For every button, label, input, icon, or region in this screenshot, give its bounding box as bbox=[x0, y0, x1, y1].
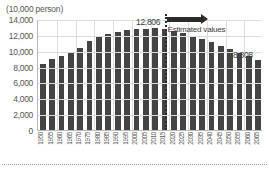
x-axis-tick-label: 2010 bbox=[151, 132, 157, 145]
x-axis-tick-label: 2005 bbox=[142, 132, 148, 145]
bar bbox=[255, 60, 261, 130]
x-gridline bbox=[57, 20, 58, 130]
x-axis-tick-label: 2030 bbox=[188, 132, 194, 145]
x-axis-tick-label: 2050 bbox=[226, 132, 232, 145]
x-axis-tick-label: 1950 bbox=[38, 132, 44, 145]
x-axis-tick-label: 2040 bbox=[207, 132, 213, 145]
x-axis-tick-label: 1995 bbox=[123, 132, 129, 145]
y-axis-tick-label: 14,000 bbox=[0, 15, 33, 25]
plot-area bbox=[37, 20, 262, 131]
x-axis-tick-label: 2025 bbox=[179, 132, 185, 145]
final-value-label: 8,808 bbox=[233, 50, 253, 60]
bar bbox=[77, 48, 83, 130]
x-gridline bbox=[76, 20, 77, 130]
x-gridline bbox=[151, 20, 152, 130]
x-gridline bbox=[132, 20, 133, 130]
x-gridline bbox=[169, 20, 170, 130]
bar bbox=[218, 46, 224, 130]
y-axis-tick-label: 12,000 bbox=[0, 31, 33, 41]
bar bbox=[237, 53, 243, 130]
y-axis-tick-label: 10,000 bbox=[0, 47, 33, 57]
bar bbox=[227, 49, 233, 130]
bottom-dotted-rule bbox=[2, 164, 267, 165]
x-axis-tick-label: 2060 bbox=[245, 132, 251, 145]
x-gridline bbox=[113, 20, 114, 130]
x-gridline bbox=[94, 20, 95, 130]
x-axis-tick-label: 2035 bbox=[198, 132, 204, 145]
estimated-values-label: Estimated values bbox=[168, 25, 226, 34]
bar bbox=[209, 42, 215, 130]
y-axis-tick-label: 0 bbox=[0, 126, 33, 136]
y-axis-tick-label: 4,000 bbox=[0, 94, 33, 104]
x-axis-tick-label: 1965 bbox=[67, 132, 73, 145]
bar bbox=[68, 52, 74, 130]
peak-value-label: 12,806 bbox=[136, 17, 160, 27]
y-axis-unit-label: (10,000 person) bbox=[6, 4, 63, 14]
x-axis-tick-label: 2020 bbox=[170, 132, 176, 145]
x-axis-tick-label: 2065 bbox=[254, 132, 260, 145]
x-axis-tick-label: 2055 bbox=[235, 132, 241, 145]
x-gridline bbox=[188, 20, 189, 130]
bar bbox=[49, 59, 55, 130]
x-axis-tick-label: 1975 bbox=[85, 132, 91, 145]
x-axis-tick-label: 1955 bbox=[48, 132, 54, 145]
x-axis-tick-label: 2045 bbox=[217, 132, 223, 145]
x-axis-tick-label: 1960 bbox=[57, 132, 63, 145]
x-axis-tick-label: 2000 bbox=[132, 132, 138, 145]
x-gridline bbox=[244, 20, 245, 130]
y-axis-tick-label: 2,000 bbox=[0, 110, 33, 120]
bar bbox=[40, 64, 46, 130]
estimate-divider-line bbox=[165, 14, 167, 130]
x-axis-tick-label: 1985 bbox=[104, 132, 110, 145]
x-gridline bbox=[207, 20, 208, 130]
x-gridline bbox=[226, 20, 227, 130]
x-axis-tick-label: 1990 bbox=[113, 132, 119, 145]
x-axis-tick-label: 2015 bbox=[160, 132, 166, 145]
x-axis-tick-label: 1970 bbox=[76, 132, 82, 145]
bar bbox=[87, 41, 93, 130]
y-axis-tick-label: 8,000 bbox=[0, 63, 33, 73]
estimated-values-arrow-icon bbox=[167, 16, 208, 22]
y-axis-tick-label: 6,000 bbox=[0, 78, 33, 88]
x-axis-tick-label: 1980 bbox=[95, 132, 101, 145]
population-projection-chart: (10,000 person) 02,0004,0006,0008,00010,… bbox=[0, 0, 269, 169]
x-axis-tick-labels: 1950195519601965197019751980198519901995… bbox=[37, 131, 262, 161]
